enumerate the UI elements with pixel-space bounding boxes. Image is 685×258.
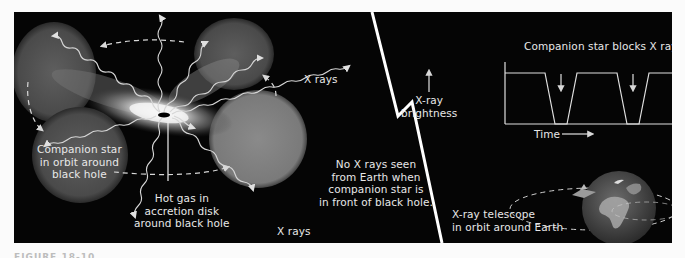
telescope-label: X-ray telescope in orbit around Earth [452, 208, 563, 233]
no-x-rays-label: No X rays seen from Earth when companion… [319, 158, 433, 208]
hot-gas-label: Hot gas in accretion disk around black h… [134, 192, 230, 230]
hot-gas-label-line: around black hole [134, 217, 230, 230]
no-x-rays-label-line: in front of black hole. [319, 196, 433, 209]
graph-y-label: X-ray brightness [401, 94, 457, 119]
graph-title: Companion star blocks X rays [524, 40, 672, 53]
brightness-curve [505, 73, 672, 124]
companion-star-label-line: black hole [37, 168, 122, 181]
companion-star-front [209, 90, 307, 188]
diagram-panel: X rays X rays Companion star in orbit ar… [14, 12, 672, 243]
x-rays-label-upper: X rays [304, 73, 338, 86]
graph-x-label: Time [534, 128, 560, 141]
no-x-rays-label-line: No X rays seen [319, 158, 433, 171]
graph-y-label-line: X-ray [401, 94, 457, 107]
panel-divider [372, 12, 442, 243]
hot-gas-label-line: Hot gas in [134, 192, 230, 205]
companion-star-label-line: Companion star [37, 143, 122, 156]
telescope-label-line: in orbit around Earth [452, 221, 563, 234]
telescope-label-line: X-ray telescope [452, 208, 563, 221]
figure-caption: FIGURE 18-10 [14, 250, 95, 258]
no-x-rays-label-line: from Earth when [319, 171, 433, 184]
x-rays-label-lower: X rays [277, 225, 311, 238]
black-hole [158, 113, 170, 118]
light-curve-graph [429, 62, 672, 134]
no-x-rays-label-line: companion star is [319, 183, 433, 196]
graph-y-label-line: brightness [401, 107, 457, 120]
hot-gas-label-line: accretion disk [134, 205, 230, 218]
companion-star-label-line: in orbit around [37, 156, 122, 169]
companion-star-label: Companion star in orbit around black hol… [37, 143, 122, 181]
